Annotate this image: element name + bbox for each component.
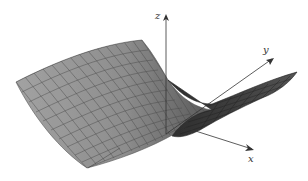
z-axis-label: z bbox=[155, 11, 160, 21]
saddle-surface-figure: z y x bbox=[0, 0, 308, 181]
surface-left-wing bbox=[16, 40, 212, 168]
surface-plot-canvas bbox=[0, 0, 308, 181]
x-axis-line bbox=[183, 127, 252, 149]
y-axis-label: y bbox=[263, 45, 269, 55]
x-axis-label: x bbox=[248, 154, 254, 164]
y-axis-arrowhead-icon bbox=[266, 58, 274, 65]
